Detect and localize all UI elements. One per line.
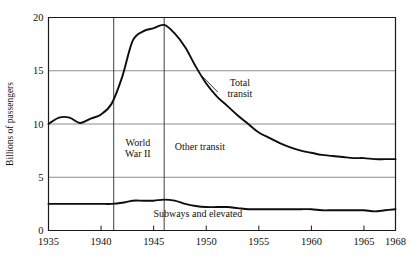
x-tick-label-1935: 1935: [38, 236, 59, 247]
y-tick-label-20: 20: [33, 12, 44, 23]
annotation-other-transit: Other transit: [175, 141, 225, 152]
y-tick-label-5: 5: [38, 172, 43, 183]
y-tick-label-10: 10: [33, 119, 44, 130]
annotation-world-war-2-line1: World: [126, 137, 151, 148]
y-tick-label-15: 15: [33, 65, 44, 76]
x-tick-label-1965: 1965: [353, 236, 374, 247]
x-tick-label-1940: 1940: [91, 236, 112, 247]
annotation-world-war-2-line2: War II: [125, 148, 151, 159]
x-tick-label-1945: 1945: [143, 236, 164, 247]
y-axis-title: Billions of passengers: [5, 82, 15, 166]
annotation-total-transit-line2: transit: [227, 88, 252, 99]
annotation-total-transit-line1: Total: [230, 77, 251, 88]
x-tick-label-1955: 1955: [248, 236, 269, 247]
x-tick-label-1968: 1968: [385, 236, 406, 247]
x-tick-label-1960: 1960: [301, 236, 322, 247]
x-tick-label-1950: 1950: [196, 236, 217, 247]
annotation-subways-and-elevated: Subways and elevated: [153, 208, 242, 219]
transit-ridership-chart: 19351940194519501955196019651968 0510152…: [0, 0, 413, 263]
chart-background: [0, 0, 413, 263]
y-tick-label-0: 0: [38, 225, 43, 236]
chart-canvas: 19351940194519501955196019651968 0510152…: [0, 0, 413, 263]
